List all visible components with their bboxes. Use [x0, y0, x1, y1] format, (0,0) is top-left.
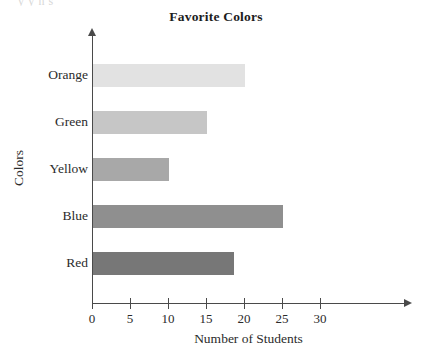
y-axis-title: Colors [11, 128, 27, 208]
category-label-blue: Blue [2, 208, 88, 224]
category-label-orange: Orange [2, 67, 88, 83]
bar-green [93, 111, 207, 134]
x-tick-label-5: 5 [115, 311, 145, 327]
x-tick-20 [244, 298, 245, 309]
x-tick-label-0: 0 [77, 311, 107, 327]
x-tick-label-25: 25 [267, 311, 297, 327]
x-tick-label-20: 20 [229, 311, 259, 327]
x-tick-30 [320, 298, 321, 309]
category-label-red: Red [2, 255, 88, 271]
x-tick-label-30: 30 [305, 311, 335, 327]
x-tick-0 [92, 298, 93, 309]
bar-yellow [93, 158, 169, 181]
x-tick-10 [168, 298, 169, 309]
bar-red [93, 252, 234, 275]
y-axis-arrow-icon [88, 28, 96, 36]
bar-blue [93, 205, 283, 228]
x-tick-label-10: 10 [153, 311, 183, 327]
bar-chart-plot: 051015202530 OrangeGreenYellowBlueRed Co… [0, 0, 432, 364]
x-tick-25 [282, 298, 283, 309]
bar-orange [93, 64, 245, 87]
x-axis-line [92, 303, 405, 304]
x-axis-title: Number of Students [92, 331, 405, 347]
x-tick-5 [130, 298, 131, 309]
x-tick-label-15: 15 [191, 311, 221, 327]
x-axis-arrow-icon [404, 299, 412, 307]
x-tick-15 [206, 298, 207, 309]
